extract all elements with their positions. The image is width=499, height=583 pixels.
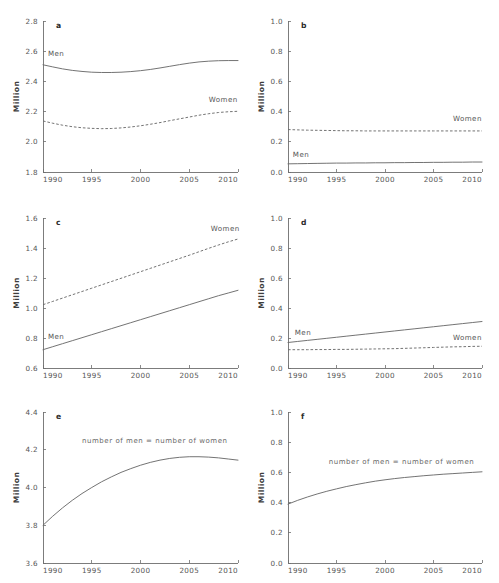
panel-letter-f: f [301, 412, 305, 421]
x-tick-label-d: 2010 [462, 371, 482, 380]
x-tick-label-e: 2010 [218, 566, 238, 575]
series-label-c: Women [211, 224, 240, 233]
y-tick-label-c: 1.6 [26, 214, 39, 223]
y-tick-label-c: 1.0 [26, 304, 39, 313]
series-line-e-numberofmennumberofwomen [43, 457, 238, 526]
panel-letter-b: b [301, 21, 307, 30]
y-tick-label-b: 1.0 [271, 17, 284, 26]
y-axis-title-a: Million [12, 81, 21, 112]
y-tick-label-f: 0.2 [271, 528, 283, 537]
series-label-d: Women [453, 333, 482, 342]
series-line-c-women [43, 239, 238, 305]
y-tick-label-e: 3.6 [26, 559, 39, 568]
panel-e: 3.63.84.04.24.419901995200020052010Milli… [12, 408, 238, 575]
x-tick-label-b: 2005 [424, 175, 444, 184]
x-tick-label-f: 1990 [288, 566, 308, 575]
y-tick-label-e: 4.2 [26, 445, 38, 454]
y-tick-label-d: 0.6 [271, 274, 284, 283]
y-axis-title-b: Million [257, 81, 266, 112]
series-line-c-men [43, 290, 238, 349]
x-tick-label-d: 2005 [424, 371, 444, 380]
y-tick-label-d: 0.8 [271, 244, 284, 253]
x-tick-label-f: 2010 [462, 566, 482, 575]
axis-lines-b [288, 21, 482, 172]
x-tick-label-e: 2000 [131, 566, 151, 575]
y-tick-label-b: 0.0 [271, 168, 284, 177]
axis-lines-c [43, 218, 238, 368]
y-tick-label-c: 1.4 [26, 244, 39, 253]
figure-panel-grid: 1.82.02.22.42.62.819901995200020052010Mi… [0, 0, 499, 583]
y-axis-title-e: Million [12, 472, 21, 503]
series-label-b: Men [293, 150, 309, 159]
panel-letter-d: d [301, 218, 306, 227]
x-tick-label-f: 2005 [424, 566, 444, 575]
y-tick-label-a: 2.2 [26, 107, 38, 116]
x-tick-label-a: 2000 [131, 175, 151, 184]
y-tick-label-e: 4.4 [26, 408, 39, 417]
x-tick-label-d: 1990 [288, 371, 308, 380]
series-line-a-men [43, 61, 238, 73]
y-tick-label-f: 0.4 [271, 498, 284, 507]
x-tick-label-c: 2000 [131, 371, 151, 380]
panel-d: 0.00.20.40.60.81.019901995200020052010Mi… [257, 214, 482, 380]
y-tick-label-d: 0.0 [271, 364, 284, 373]
x-tick-label-c: 2005 [179, 371, 199, 380]
annotation-label-f: number of men = number of women [329, 458, 475, 466]
y-tick-label-d: 1.0 [271, 214, 284, 223]
series-label-a: Men [48, 49, 64, 58]
y-tick-label-a: 2.0 [26, 137, 39, 146]
y-tick-label-f: 0.8 [271, 438, 284, 447]
x-tick-label-e: 2005 [179, 566, 199, 575]
y-tick-label-e: 3.8 [26, 521, 39, 530]
panel-letter-c: c [56, 218, 61, 227]
x-tick-label-a: 2010 [218, 175, 238, 184]
series-line-b-men [288, 162, 482, 164]
y-tick-label-b: 0.2 [271, 137, 283, 146]
y-axis-title-d: Million [257, 277, 266, 308]
x-tick-label-f: 2000 [375, 566, 395, 575]
x-tick-label-e: 1995 [82, 566, 102, 575]
series-label-b: Women [453, 114, 482, 123]
panel-letter-e: e [56, 412, 61, 421]
panel-letter-a: a [56, 21, 61, 30]
y-tick-label-d: 0.4 [271, 304, 284, 313]
y-tick-label-a: 2.6 [26, 47, 39, 56]
x-tick-label-c: 2010 [218, 371, 238, 380]
axis-lines-f [288, 412, 482, 563]
panel-c: 0.60.81.01.21.41.619901995200020052010Mi… [12, 214, 240, 380]
x-tick-label-b: 2010 [462, 175, 482, 184]
y-tick-label-f: 0.0 [271, 559, 284, 568]
panel-a: 1.82.02.22.42.62.819901995200020052010Mi… [12, 17, 238, 184]
series-label-d: Men [295, 328, 311, 337]
x-tick-label-a: 1990 [43, 175, 63, 184]
y-axis-title-f: Million [257, 472, 266, 503]
y-tick-label-d: 0.2 [271, 334, 283, 343]
y-tick-label-b: 0.8 [271, 47, 284, 56]
y-tick-label-a: 2.4 [26, 77, 39, 86]
y-tick-label-a: 2.8 [26, 17, 39, 26]
series-line-d-women [288, 346, 482, 349]
series-label-a: Women [209, 95, 238, 104]
y-tick-label-b: 0.4 [271, 107, 284, 116]
series-line-b-women [288, 130, 482, 131]
x-tick-label-d: 2000 [375, 371, 395, 380]
axis-lines-d [288, 218, 482, 368]
y-tick-label-f: 0.6 [271, 468, 284, 477]
axis-lines-e [43, 412, 238, 563]
y-tick-label-c: 1.2 [26, 274, 38, 283]
panel-b: 0.00.20.40.60.81.019901995200020052010Mi… [257, 17, 482, 184]
x-tick-label-d: 1995 [327, 371, 347, 380]
y-tick-label-b: 0.6 [271, 77, 284, 86]
y-tick-label-e: 4.0 [26, 483, 39, 492]
series-label-c: Men [48, 332, 64, 341]
multi-panel-line-chart: 1.82.02.22.42.62.819901995200020052010Mi… [0, 0, 499, 583]
x-tick-label-c: 1990 [43, 371, 63, 380]
y-tick-label-a: 1.8 [26, 168, 39, 177]
x-tick-label-a: 2005 [179, 175, 199, 184]
series-line-f-numberofmennumberofwomen [288, 472, 482, 504]
x-tick-label-b: 1995 [327, 175, 347, 184]
y-tick-label-f: 1.0 [271, 408, 284, 417]
x-tick-label-c: 1995 [82, 371, 102, 380]
x-tick-label-b: 2000 [375, 175, 395, 184]
x-tick-label-f: 1995 [327, 566, 347, 575]
